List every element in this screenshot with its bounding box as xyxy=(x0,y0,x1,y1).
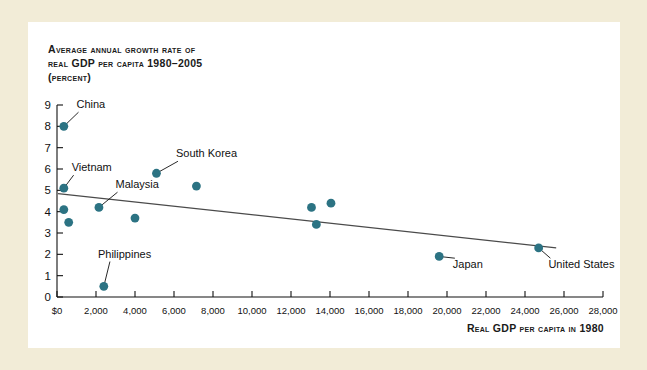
data-point xyxy=(99,282,108,291)
point-label: Philippines xyxy=(98,248,152,260)
data-point xyxy=(64,218,73,227)
x-tick-label: 28,000 xyxy=(588,305,617,316)
x-tick-label: 18,000 xyxy=(393,305,422,316)
x-tick-label: 26,000 xyxy=(549,305,578,316)
y-axis-ticks: 0123456789 xyxy=(45,99,63,303)
x-tick-label: 22,000 xyxy=(471,305,500,316)
data-point xyxy=(59,184,68,193)
y-tick-label: 0 xyxy=(45,291,51,303)
point-label: Japan xyxy=(453,258,483,270)
data-point xyxy=(59,122,68,131)
y-tick-label: 8 xyxy=(45,120,51,132)
y-tick-label: 2 xyxy=(45,248,51,260)
x-tick-label: 16,000 xyxy=(354,305,383,316)
point-annotations: ChinaVietnamMalaysiaSouth KoreaPhilippin… xyxy=(72,98,615,270)
data-point xyxy=(327,199,336,208)
y-tick-label: 7 xyxy=(45,142,51,154)
data-point xyxy=(152,169,161,178)
scatter-plot: 0123456789 $02,0004,0006,0008,00010,0001… xyxy=(28,22,620,348)
data-point xyxy=(192,182,201,191)
data-point xyxy=(59,205,68,214)
point-label: South Korea xyxy=(176,147,238,159)
x-tick-label: 20,000 xyxy=(432,305,461,316)
x-tick-label: $0 xyxy=(52,305,63,316)
data-point xyxy=(435,252,444,261)
data-point xyxy=(312,220,321,229)
y-tick-label: 4 xyxy=(45,206,52,218)
x-axis-ticks: $02,0004,0006,0008,00010,00012,00014,000… xyxy=(52,291,618,316)
x-tick-label: 2,000 xyxy=(84,305,108,316)
x-tick-label: 12,000 xyxy=(276,305,305,316)
x-tick-label: 14,000 xyxy=(315,305,344,316)
y-tick-label: 3 xyxy=(45,227,51,239)
point-label: United States xyxy=(548,258,615,270)
point-label: China xyxy=(77,98,107,110)
chart-card: Average annual growth rate of real GDP p… xyxy=(28,22,620,348)
x-tick-label: 10,000 xyxy=(237,305,266,316)
point-label: Malaysia xyxy=(116,178,160,190)
figure-page: Average annual growth rate of real GDP p… xyxy=(0,0,647,370)
data-point xyxy=(131,214,140,223)
data-point xyxy=(307,203,316,212)
data-point xyxy=(534,244,543,253)
x-tick-label: 4,000 xyxy=(123,305,147,316)
y-tick-label: 6 xyxy=(45,163,51,175)
y-tick-label: 5 xyxy=(45,184,51,196)
data-point xyxy=(95,203,104,212)
x-tick-label: 24,000 xyxy=(510,305,539,316)
x-tick-label: 8,000 xyxy=(201,305,225,316)
x-tick-label: 6,000 xyxy=(162,305,186,316)
x-axis-title: Real GDP per capita in 1980 xyxy=(467,322,604,334)
y-tick-label: 9 xyxy=(45,99,51,111)
point-label: Vietnam xyxy=(72,161,112,173)
y-tick-label: 1 xyxy=(45,270,51,282)
